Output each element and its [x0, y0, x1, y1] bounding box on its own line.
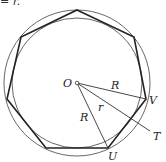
label-o: O: [63, 77, 72, 90]
center-point: [75, 81, 79, 85]
heptagon-diagram: O R R r V U T: [0, 0, 166, 162]
label-u: U: [108, 150, 118, 162]
label-r-ov: R: [110, 79, 119, 92]
label-t: T: [153, 130, 162, 143]
label-r-ou: R: [79, 111, 88, 124]
label-r-inradius: r: [98, 101, 104, 114]
label-v: V: [149, 94, 158, 107]
